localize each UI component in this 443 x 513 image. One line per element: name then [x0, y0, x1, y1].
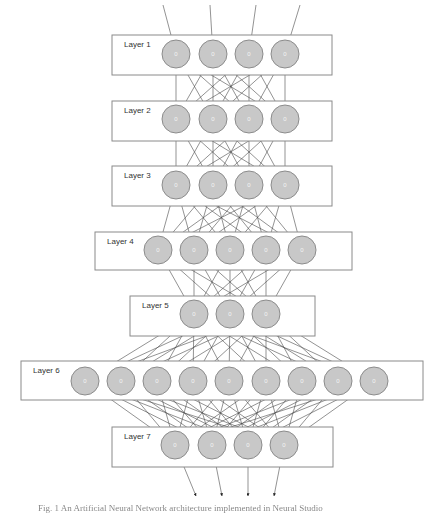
neuron-node: 0 [199, 171, 227, 199]
neuron-node: 0 [288, 367, 316, 395]
neuron-node: 0 [180, 300, 208, 328]
neuron-node: 0 [324, 367, 352, 395]
neuron-node: 0 [271, 40, 299, 68]
neuron-node: 0 [216, 236, 244, 264]
layer-6: Layer 6000000000 [21, 361, 423, 400]
neuron-node: 0 [199, 40, 227, 68]
neuron-node: 0 [252, 367, 280, 395]
layer-1: Layer 10000 [112, 35, 332, 75]
layer-4: Layer 400000 [95, 232, 352, 270]
neuron-node: 0 [162, 171, 190, 199]
neuron-node: 0 [288, 236, 316, 264]
layer-3: Layer 30000 [112, 166, 332, 206]
neuron-node: 0 [235, 171, 263, 199]
neuron-node: 0 [199, 105, 227, 133]
neuron-node: 0 [162, 105, 190, 133]
layer-label: Layer 6 [33, 366, 60, 375]
neuron-node: 0 [252, 236, 280, 264]
neuron-node: 0 [235, 105, 263, 133]
neuron-node: 0 [215, 367, 243, 395]
figure-caption: Fig. 1 An Artificial Neural Network arch… [38, 503, 323, 513]
neuron-node: 0 [71, 367, 99, 395]
neuron-node: 0 [360, 367, 388, 395]
neuron-node: 0 [144, 236, 172, 264]
layer-label: Layer 3 [124, 171, 151, 180]
neuron-node: 0 [235, 40, 263, 68]
neuron-node: 0 [107, 367, 135, 395]
neuron-node: 0 [271, 171, 299, 199]
neuron-node: 0 [143, 367, 171, 395]
neuron-node: 0 [179, 367, 207, 395]
layer-label: Layer 2 [124, 106, 151, 115]
neuron-node: 0 [198, 431, 226, 459]
neuron-node: 0 [161, 431, 189, 459]
layer-label: Layer 4 [107, 237, 134, 246]
neural-network-diagram: Layer 10000Layer 20000Layer 30000Layer 4… [0, 0, 443, 513]
layer-5: Layer 5000 [130, 296, 315, 336]
neuron-node: 0 [216, 300, 244, 328]
layers-group: Layer 10000Layer 20000Layer 30000Layer 4… [21, 35, 423, 467]
layer-2: Layer 20000 [112, 101, 332, 141]
layer-label: Layer 1 [124, 40, 151, 49]
layer-7: Layer 70000 [112, 427, 333, 467]
layer-label: Layer 7 [124, 432, 151, 441]
neuron-node: 0 [270, 431, 298, 459]
neuron-node: 0 [252, 300, 280, 328]
neuron-node: 0 [234, 431, 262, 459]
neuron-node: 0 [162, 40, 190, 68]
neuron-node: 0 [180, 236, 208, 264]
layer-label: Layer 5 [142, 301, 169, 310]
neuron-node: 0 [271, 105, 299, 133]
